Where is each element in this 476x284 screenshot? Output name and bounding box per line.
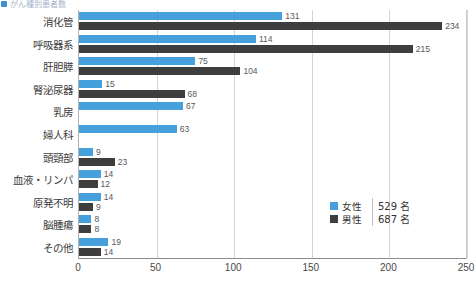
x-tick-label: 100 [225, 262, 242, 273]
bar-group: 1914 [79, 235, 466, 258]
legend-item[interactable]: 男性687 名 [330, 212, 410, 225]
category-label: その他 [43, 240, 73, 255]
bar-value-label: 15 [105, 80, 114, 88]
square-bullet-icon [1, 1, 7, 7]
bar-female [79, 170, 101, 178]
bar-value-label: 114 [259, 35, 273, 43]
bar-value-label: 75 [198, 57, 207, 65]
bar-female [79, 125, 177, 133]
bar-value-label: 68 [188, 90, 197, 98]
bar-value-label: 19 [111, 238, 120, 246]
gridline [467, 10, 468, 258]
bar-male [79, 90, 185, 98]
category-label: 乳房 [53, 104, 73, 119]
bar-value-label: 9 [96, 203, 101, 211]
bar-male [79, 158, 115, 166]
bar-value-label: 131 [285, 12, 299, 20]
bar-female [79, 57, 195, 65]
bar-value-label: 8 [94, 225, 99, 233]
bar-value-label: 63 [180, 125, 189, 133]
bar-group: 923 [79, 145, 466, 168]
x-tick-label: 200 [380, 262, 397, 273]
legend-swatch-icon [330, 215, 338, 223]
x-tick-label: 150 [302, 262, 319, 273]
bar-male [79, 248, 101, 256]
bar-male [79, 22, 442, 30]
category-label: 呼吸器系 [33, 37, 73, 52]
bar-female [79, 238, 108, 246]
legend-count: 687 名 [372, 211, 410, 226]
category-label: 頭頸部 [43, 150, 73, 165]
bar-value-label: 8 [94, 215, 99, 223]
bar-group: 114215 [79, 33, 466, 56]
bar-female [79, 12, 282, 20]
bar-value-label: 215 [416, 45, 430, 53]
bar-female [79, 35, 256, 43]
bar-group: 1568 [79, 78, 466, 101]
bar-group: 75104 [79, 55, 466, 78]
category-label: 脳腫瘍 [43, 217, 73, 232]
bar-value-label: 14 [104, 193, 113, 201]
bar-group: 63 [79, 123, 466, 146]
page-header-strip: がん種別患者数 [0, 0, 476, 9]
bar-value-label: 14 [104, 248, 113, 256]
bar-male [79, 203, 93, 211]
category-label: 消化管 [43, 14, 73, 29]
x-tick-label: 0 [75, 262, 81, 273]
bar-female [79, 148, 93, 156]
bar-value-label: 9 [96, 148, 101, 156]
bar-female [79, 102, 183, 110]
bar-group: 67 [79, 100, 466, 123]
category-label: 血液・リンパ [13, 172, 73, 187]
bar-group: 1412 [79, 168, 466, 191]
bar-male [79, 180, 98, 188]
bar-value-label: 234 [445, 22, 459, 30]
bar-value-label: 104 [243, 67, 257, 75]
legend-swatch-icon [330, 202, 338, 210]
bar-female [79, 215, 91, 223]
legend-label: 女性 [342, 199, 372, 213]
bar-male [79, 225, 91, 233]
bar-female [79, 193, 101, 201]
category-label: 婦人科 [43, 127, 73, 142]
chart-legend: 女性529 名男性687 名 [330, 199, 410, 225]
bar-chart: がん種別患者数 13123411421575104156867639231412… [0, 0, 476, 284]
category-label: 腎泌尿器 [33, 82, 73, 97]
bar-female [79, 80, 102, 88]
x-tick-label: 250 [458, 262, 475, 273]
bar-male [79, 45, 413, 53]
category-label: 原発不明 [33, 195, 73, 210]
bar-value-label: 14 [104, 170, 113, 178]
category-label: 肝胆膵 [43, 59, 73, 74]
bar-value-label: 12 [101, 180, 110, 188]
bar-male [79, 67, 240, 75]
bar-group: 131234 [79, 10, 466, 33]
bar-value-label: 67 [186, 102, 195, 110]
legend-label: 男性 [342, 212, 372, 226]
x-tick-label: 50 [150, 262, 161, 273]
page-title: がん種別患者数 [10, 0, 66, 9]
bar-value-label: 23 [118, 158, 127, 166]
